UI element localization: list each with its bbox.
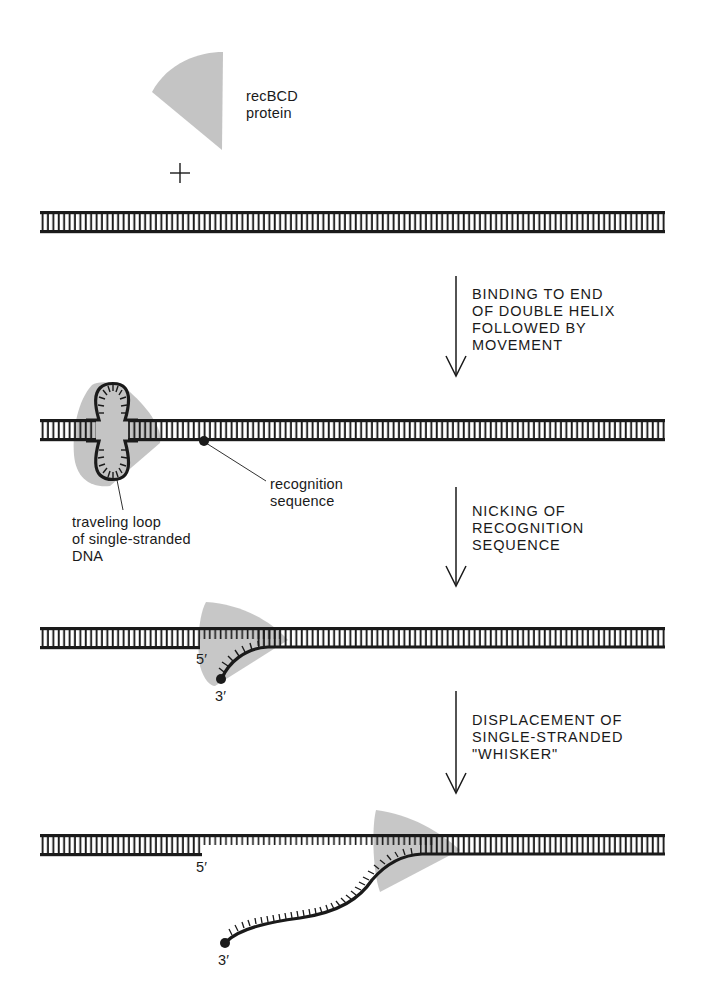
plus-icon (170, 163, 190, 183)
three-prime-end-dot (220, 938, 230, 948)
dna-double-helix (40, 627, 665, 678)
step-arrow-down-icon (446, 276, 466, 376)
recognition-site-dot (199, 436, 209, 446)
stage-3 (40, 602, 665, 686)
three-prime-label: 3′ (215, 688, 226, 705)
step-arrow-down-icon (446, 691, 466, 793)
stage-4 (40, 810, 665, 948)
recbcd-protein-shape (152, 52, 223, 150)
loop-leader-line (117, 480, 123, 510)
dna-double-helix (40, 211, 665, 233)
step-label-nicking: NICKING OF RECOGNITION SEQUENCE (472, 503, 584, 554)
stage-1 (40, 52, 665, 233)
stage-2 (40, 382, 665, 510)
three-prime-end-dot (216, 674, 226, 684)
recbcd-diagram (0, 0, 701, 1003)
step-label-binding: BINDING TO END OF DOUBLE HELIX FOLLOWED … (472, 286, 615, 354)
step-label-displacement: DISPLACEMENT OF SINGLE-STRANDED "WHISKER… (472, 712, 623, 763)
protein-label: recBCD protein (246, 88, 298, 122)
five-prime-label: 5′ (196, 651, 207, 668)
step-arrow-down-icon (446, 487, 466, 586)
dna-double-helix (40, 834, 665, 942)
recognition-sequence-label: recognition sequence (270, 476, 343, 510)
three-prime-label: 3′ (218, 952, 229, 969)
five-prime-label: 5′ (196, 859, 207, 876)
traveling-loop-label: traveling loop of single-stranded DNA (72, 514, 191, 565)
recognition-leader-line (206, 443, 266, 481)
dna-double-helix (40, 419, 665, 441)
